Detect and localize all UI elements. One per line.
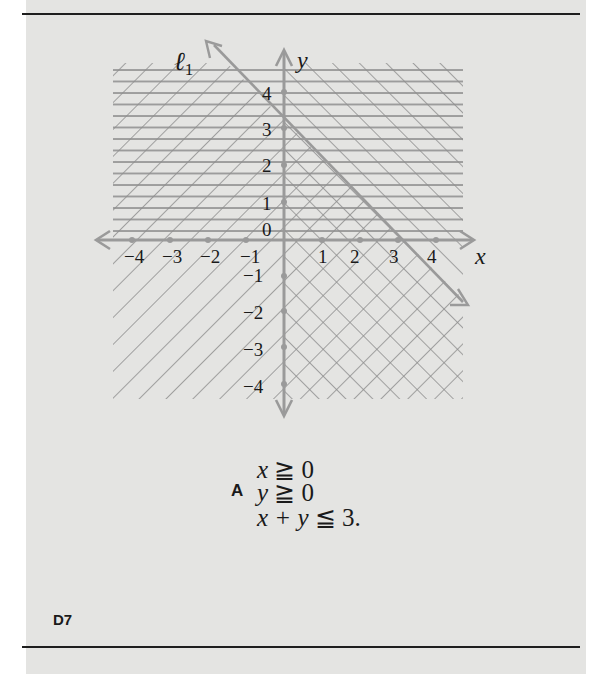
y-tick-label: 0	[262, 219, 272, 240]
ineq-op: ≧	[274, 479, 295, 506]
line-l1-label: ℓ1	[174, 47, 193, 79]
y-tick-label: 4	[262, 83, 272, 104]
x-tick-label: 3	[389, 246, 399, 267]
y-tick-label: 1	[262, 193, 272, 214]
x-tick-label: 1	[318, 246, 328, 267]
ineq-lhs: x + y	[257, 504, 309, 531]
ineq-lhs: y	[257, 479, 268, 506]
figure-label: D7	[53, 611, 72, 628]
line-label-subscript: 1	[185, 60, 194, 79]
ineq-op: ≦	[315, 504, 336, 531]
system-label: A	[231, 481, 243, 501]
inequality-3: x + y ≦ 3.	[257, 503, 361, 532]
line-label-letter: ℓ	[174, 47, 185, 76]
y-tick-label: 3	[262, 119, 272, 140]
x-tick-label: −2	[200, 246, 220, 267]
y-tick-label: −1	[243, 265, 263, 286]
x-tick-label: 4	[427, 246, 437, 267]
x-tick-label: −1	[240, 246, 260, 267]
y-tick-label: 2	[262, 155, 272, 176]
ineq-rhs: 3.	[342, 504, 361, 531]
y-tick-label: −3	[243, 339, 263, 360]
x-tick-label: 2	[350, 246, 360, 267]
inequality-graph: −4 −3 −2 −1 1 2 3 4 4 3 2 1 0 −1 −2 −3 −…	[0, 0, 608, 674]
x-axis-label: x	[474, 243, 486, 269]
x-tick-label: −4	[124, 246, 145, 267]
y-axis-label: y	[295, 47, 308, 73]
y-tick-label: −4	[243, 376, 264, 397]
x-tick-label: −3	[162, 246, 182, 267]
y-tick-label: −2	[243, 302, 263, 323]
ineq-rhs: 0	[302, 479, 315, 506]
